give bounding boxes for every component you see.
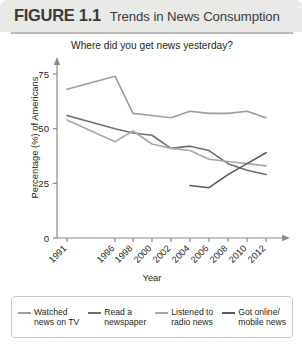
legend-label: Got online/ mobile news <box>238 307 286 328</box>
x-tick-label: 2012 <box>246 243 268 265</box>
series-line <box>67 116 266 175</box>
legend-label: Read a newspaper <box>104 307 146 328</box>
y-axis-arrow-icon <box>54 57 60 65</box>
chart-area: Where did you get news yesterday? 025507… <box>11 36 293 288</box>
legend-item[interactable]: Watched news on TV <box>18 307 79 328</box>
x-tick-label: 1998 <box>113 243 135 265</box>
header-divider <box>11 32 293 34</box>
x-axis-label: Year <box>11 272 293 283</box>
series-line <box>67 76 266 118</box>
legend-item[interactable]: Got online/ mobile news <box>222 307 286 328</box>
x-tick-label: 1996 <box>95 243 117 265</box>
figure-number: FIGURE 1.1 <box>14 6 101 25</box>
y-tick-label: 75 <box>38 69 49 80</box>
x-tick-label: 2010 <box>227 243 249 265</box>
line-plot: 0255075199119961998200020022004200620082… <box>11 36 293 288</box>
y-tick-label: 50 <box>38 123 49 134</box>
figure-header-band: FIGURE 1.1 Trends in News Consumption <box>0 0 302 32</box>
legend-item[interactable]: Read a newspaper <box>88 307 146 328</box>
plot-svg: 0255075199119961998200020022004200620082… <box>11 36 293 288</box>
series-line <box>190 153 266 188</box>
y-tick-label: 25 <box>38 178 49 189</box>
x-tick-label: 2002 <box>151 243 173 265</box>
legend-swatch-icon <box>18 312 31 314</box>
y-axis-label: Percentage (%) of Americans <box>29 68 40 208</box>
series-line <box>67 120 266 166</box>
legend-label: Watched news on TV <box>34 307 79 328</box>
x-axis-arrow-icon <box>282 235 290 241</box>
x-tick-label: 2000 <box>132 243 154 265</box>
x-tick-label: 2008 <box>208 243 230 265</box>
legend-label: Listened to radio news <box>171 307 213 328</box>
x-tick-label: 1991 <box>47 243 69 265</box>
x-tick-label: 2004 <box>170 243 192 265</box>
figure-card: FIGURE 1.1 Trends in News Consumption Wh… <box>0 0 302 347</box>
chart-legend: Watched news on TVRead a newspaperListen… <box>11 296 293 338</box>
y-tick-label: 0 <box>44 233 49 244</box>
legend-swatch-icon <box>155 312 168 314</box>
legend-swatch-icon <box>88 312 101 314</box>
legend-item[interactable]: Listened to radio news <box>155 307 213 328</box>
figure-title: Trends in News Consumption <box>110 9 280 24</box>
legend-swatch-icon <box>222 312 235 314</box>
figure-header: FIGURE 1.1 Trends in News Consumption <box>14 6 294 28</box>
x-tick-label: 2006 <box>189 243 211 265</box>
